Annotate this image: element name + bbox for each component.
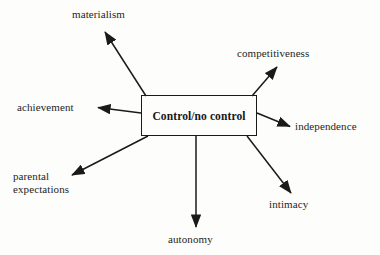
center-node-label: Control/no control <box>141 95 257 136</box>
arrow-to-parental-expectations <box>72 136 148 175</box>
node-label-parental-expectations: parental expectations <box>13 170 69 195</box>
arrow-to-competitiveness <box>252 67 277 96</box>
node-label-competitiveness: competitiveness <box>237 47 309 60</box>
arrow-to-intimacy <box>247 136 291 193</box>
node-label-achievement: achievement <box>17 101 74 114</box>
arrow-to-materialism <box>105 32 146 96</box>
arrow-to-achievement <box>98 108 141 114</box>
arrow-to-independence <box>257 113 290 127</box>
node-label-autonomy: autonomy <box>168 233 213 246</box>
node-label-independence: independence <box>295 120 357 133</box>
node-label-materialism: materialism <box>72 8 125 21</box>
node-label-intimacy: intimacy <box>269 198 308 211</box>
diagram-canvas: Control/no control materialism competiti… <box>0 0 380 255</box>
